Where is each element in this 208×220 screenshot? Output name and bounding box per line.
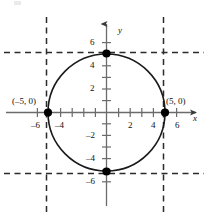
circle-graph-figure: y x –6 –4 2 4 6 6 4 2 –2 –4 –6 (–5, 0) (… xyxy=(0,0,208,220)
y-tick-label-neg2: –2 xyxy=(86,131,95,140)
x-tick-label-neg6: –6 xyxy=(31,121,40,130)
dashed-tangent-lines xyxy=(4,17,204,213)
x-tick-label-2: 2 xyxy=(128,121,133,130)
y-tick-label-2: 2 xyxy=(90,84,95,93)
point-pos5-0 xyxy=(161,108,169,116)
y-tick-label-6: 6 xyxy=(90,38,95,47)
x-tick-label-4: 4 xyxy=(151,121,156,130)
y-tick-label-neg4: –4 xyxy=(86,154,95,163)
coordinate-plane-svg xyxy=(0,0,208,220)
point-label-neg5-0: (–5, 0) xyxy=(12,97,36,106)
y-tick-label-4: 4 xyxy=(90,61,95,70)
x-axis-label: x xyxy=(193,114,197,123)
y-tick-label-neg6: –6 xyxy=(86,177,95,186)
x-tick-label-6: 6 xyxy=(175,121,180,130)
point-0-neg5 xyxy=(102,167,110,175)
point-0-pos5 xyxy=(102,49,110,57)
x-tick-label-neg4: –4 xyxy=(55,121,64,130)
point-label-pos5-0: (5, 0) xyxy=(166,97,186,106)
y-axis-label: y xyxy=(118,26,122,35)
point-neg5-0 xyxy=(44,108,52,116)
